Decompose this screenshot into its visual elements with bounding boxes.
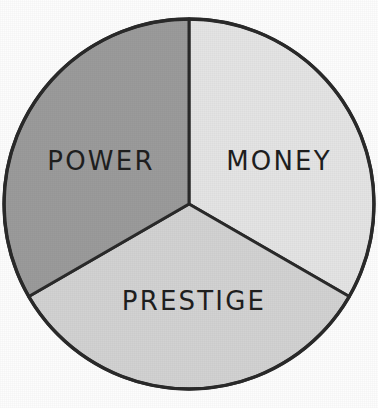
pie-chart-svg [0,0,378,408]
pie-slice-label-prestige: PRESTIGE [122,288,266,314]
pie-slice-label-power: POWER [47,148,154,174]
pie-chart-figure: POWER MONEY PRESTIGE [0,0,378,408]
pie-slice-label-money: MONEY [226,148,332,174]
